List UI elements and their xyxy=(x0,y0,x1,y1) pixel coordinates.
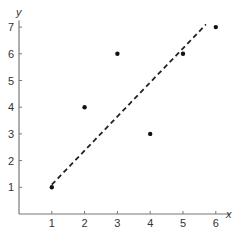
axes xyxy=(19,20,231,214)
y-axis-label: y xyxy=(15,6,23,18)
x-tick-label: 5 xyxy=(180,217,186,228)
x-tick-label: 4 xyxy=(147,217,153,228)
x-axis-label: x xyxy=(225,208,232,220)
y-tick-label: 7 xyxy=(8,21,14,33)
y-tick-label: 4 xyxy=(8,101,14,113)
data-point xyxy=(115,52,119,56)
dashed-fit-line xyxy=(52,24,206,184)
y-tick-label: 2 xyxy=(8,155,14,167)
y-tick-label: 6 xyxy=(8,48,14,60)
trend-line xyxy=(52,24,206,184)
data-point xyxy=(181,52,185,56)
x-tick-label: 3 xyxy=(114,217,120,228)
x-tick-label: 6 xyxy=(213,217,219,228)
y-axis-ticks: 1234567 xyxy=(8,21,22,193)
data-points xyxy=(50,25,218,190)
data-point xyxy=(82,105,86,109)
x-tick-label: 1 xyxy=(49,217,55,228)
scatter-chart: 123456 1234567 x y xyxy=(0,0,236,228)
x-tick-label: 2 xyxy=(82,217,88,228)
data-point xyxy=(214,25,218,29)
y-tick-label: 1 xyxy=(8,181,14,193)
y-tick-label: 5 xyxy=(8,75,14,87)
data-point xyxy=(148,132,152,136)
y-tick-label: 3 xyxy=(8,128,14,140)
data-point xyxy=(50,185,54,189)
